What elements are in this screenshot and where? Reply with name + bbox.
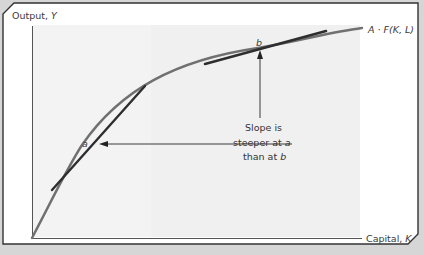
annotation-line-2: steeper at a <box>233 137 291 148</box>
production-function-diagram: Output, Y Capital, K A · F(K, L) a b Slo… <box>0 0 424 255</box>
annotation-line-1: Slope is <box>245 122 282 133</box>
annotation-line-3: than at b <box>243 151 286 162</box>
curve-label: A · F(K, L) <box>367 24 414 35</box>
point-b-label: b <box>256 37 262 48</box>
x-axis-label: Capital, K <box>366 233 412 244</box>
point-a-label: a <box>82 138 88 149</box>
y-axis-label: Output, Y <box>12 10 58 21</box>
